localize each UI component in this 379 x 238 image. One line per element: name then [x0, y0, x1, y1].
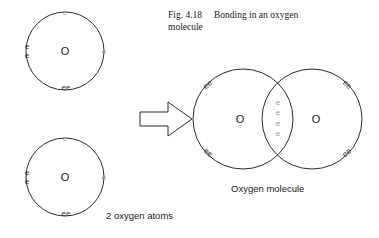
electron-right: e [102, 47, 107, 56]
shared-electron-1: e [276, 98, 281, 107]
oxygen-bonding-diagram: O e e e e ee O e e e e ee O O ee [0, 0, 379, 238]
electron-right: e [102, 173, 107, 182]
left-nucleus-label: O [236, 113, 245, 125]
figure-caption-line2: molecule [168, 22, 203, 32]
electron-left-lower: e [25, 51, 30, 60]
oxygen-bonding-figure: O e e e e ee O e e e e ee O O ee [0, 0, 379, 238]
shared-electron-4: e [276, 129, 281, 138]
molecule-label: Oxygen molecule [231, 183, 304, 194]
right-nucleus-label: O [312, 113, 321, 125]
outer-pair-bottom-left: ee [202, 146, 215, 159]
shared-electron-3: e [276, 119, 281, 128]
electron-left-upper: e [25, 42, 30, 51]
outer-pair-bottom-right: ee [340, 146, 353, 159]
electron-left-lower: e [25, 177, 30, 186]
electron-top: e [63, 134, 68, 143]
nucleus-label: O [61, 171, 70, 183]
transformation-arrow [140, 102, 192, 136]
electron-top: e [63, 8, 68, 17]
top-oxygen-atom: O e e e e ee [25, 8, 107, 92]
electron-left-upper: e [25, 168, 30, 177]
nucleus-label: O [61, 45, 70, 57]
electron-bottom-pair: ee [62, 209, 71, 218]
left-group-label: 2 oxygen atoms [106, 210, 173, 221]
figure-caption-line1: Bonding in an oxygen [214, 10, 298, 20]
bottom-oxygen-atom: O e e e e ee [25, 134, 107, 218]
oxygen-molecule-diagram: O O ee ee ee ee e e e e [193, 69, 362, 169]
electron-bottom-pair: ee [62, 83, 71, 92]
figure-number: Fig. 4.18 [168, 10, 202, 20]
right-arrow-icon [140, 102, 192, 136]
shared-electron-2: e [276, 108, 281, 117]
